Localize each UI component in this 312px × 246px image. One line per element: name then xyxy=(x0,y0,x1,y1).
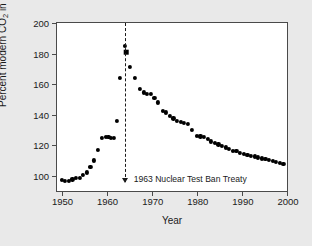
y-axis-tick: 180 xyxy=(52,54,57,55)
x-axis-tick: 1990 xyxy=(242,191,243,196)
data-point xyxy=(128,65,132,69)
chart-figure: Percent modern CO2 in atmosphere 1963 Nu… xyxy=(0,0,312,246)
data-point xyxy=(92,158,96,162)
annotation-arrow-icon xyxy=(122,178,128,183)
x-axis-tick-label: 1960 xyxy=(97,197,118,207)
y-axis-tick-label: 100 xyxy=(33,172,49,182)
data-point xyxy=(132,76,136,80)
y-axis-tick: 160 xyxy=(52,84,57,85)
y-axis-tick: 200 xyxy=(52,23,57,24)
y-axis-tick-label: 160 xyxy=(33,80,49,90)
data-point xyxy=(95,148,99,152)
x-axis-tick-label: 1950 xyxy=(52,197,73,207)
data-point xyxy=(88,164,92,168)
y-axis-title-subscript: 2 xyxy=(1,14,10,18)
y-axis-title-pre: Percent modern CO xyxy=(0,18,8,107)
data-layer: 1963 Nuclear Test Ban Treaty xyxy=(57,23,287,191)
x-axis-tick-label: 1990 xyxy=(232,197,253,207)
x-axis-tick-label: 2000 xyxy=(277,197,298,207)
annotation-label: 1963 Nuclear Test Ban Treaty xyxy=(134,175,247,184)
data-point xyxy=(114,119,118,123)
x-axis-title: Year xyxy=(56,216,288,226)
y-axis-title: Percent modern CO2 in atmosphere xyxy=(0,0,9,107)
y-axis-tick-label: 120 xyxy=(33,141,49,151)
data-point xyxy=(281,161,285,165)
data-point xyxy=(85,170,89,174)
data-point xyxy=(77,176,81,180)
x-axis-tick: 1970 xyxy=(152,191,153,196)
y-axis-title-post: in atmosphere xyxy=(0,0,8,14)
x-axis-tick-label: 1970 xyxy=(142,197,163,207)
y-axis-tick-label: 180 xyxy=(33,50,49,60)
data-point xyxy=(118,76,122,80)
plot-area: 1963 Nuclear Test Ban Treaty 10012014016… xyxy=(56,22,288,192)
x-axis-tick: 1960 xyxy=(107,191,108,196)
y-axis-tick: 100 xyxy=(52,176,57,177)
x-axis-tick: 1950 xyxy=(62,191,63,196)
data-point xyxy=(152,96,156,100)
annotation-line xyxy=(125,23,126,182)
data-point xyxy=(112,136,116,140)
x-axis-tick: 2000 xyxy=(287,191,288,196)
data-point xyxy=(190,128,194,132)
x-axis-tick-label: 1980 xyxy=(187,197,208,207)
y-axis-tick: 140 xyxy=(52,115,57,116)
data-point xyxy=(186,122,190,126)
y-axis-tick: 120 xyxy=(52,145,57,146)
y-axis-tick-label: 200 xyxy=(33,19,49,29)
x-axis-tick: 1980 xyxy=(197,191,198,196)
y-axis-tick-label: 140 xyxy=(33,111,49,121)
data-point xyxy=(156,100,160,104)
